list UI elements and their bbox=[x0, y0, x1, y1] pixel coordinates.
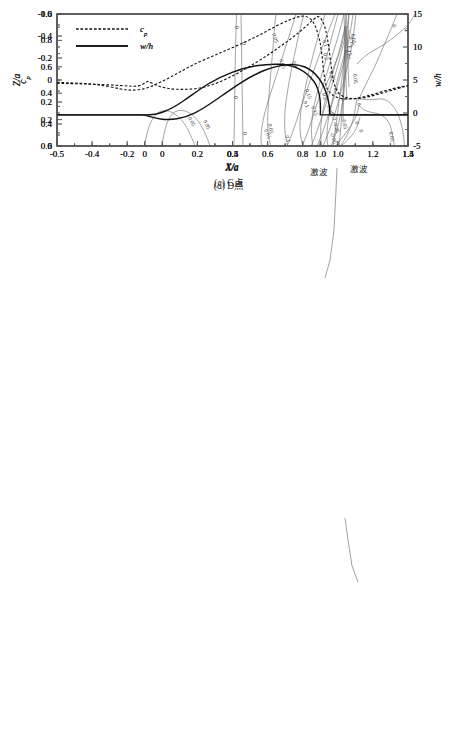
d-yr-4: -5 bbox=[413, 141, 421, 151]
series-wh-d bbox=[57, 65, 408, 120]
d-yl-3: 0 bbox=[48, 75, 53, 85]
d-yl-0: -0.6 bbox=[38, 9, 53, 19]
d-curves-ylabel-right: w/h bbox=[433, 73, 443, 87]
legend-label-wh-d: w/h bbox=[140, 41, 154, 51]
d-curves-x-ticks bbox=[57, 141, 408, 146]
figure-root: -0.4 -0.2 0 0.2 0.4 0.6 0.8 1.0 1.2 1.4 … bbox=[0, 0, 458, 739]
shock-leader-d bbox=[345, 518, 358, 582]
d-curves-xtick-0: -0.5 bbox=[50, 149, 65, 159]
d-curves-svg: -0.5 0 0.5 1.0 1.5 -0.6 -0.4 -0.2 0 0.2 … bbox=[0, 0, 458, 191]
d-curves-xlabel: X/a bbox=[224, 163, 238, 173]
caption-d: (d) D点 bbox=[214, 181, 244, 191]
d-yr-2: 5 bbox=[413, 75, 418, 85]
d-curves-ylabel-left: cp bbox=[18, 76, 31, 84]
d-yr-1: 10 bbox=[413, 42, 423, 52]
d-yl-2: -0.2 bbox=[38, 53, 52, 63]
d-yr-3: 0 bbox=[413, 108, 418, 118]
panel-d-curves: -0.5 0 0.5 1.0 1.5 -0.6 -0.4 -0.2 0 0.2 … bbox=[0, 0, 458, 191]
legend-label-cp-d: cp bbox=[140, 24, 148, 37]
d-yl-6: 0.6 bbox=[41, 141, 53, 151]
d-yl-5: 0.4 bbox=[41, 119, 53, 129]
d-yl-1: -0.4 bbox=[38, 31, 53, 41]
d-curves-xtick-1: 0 bbox=[143, 149, 148, 159]
d-leader-svg bbox=[0, 510, 458, 620]
d-curves-xtick-3: 1.0 bbox=[315, 149, 327, 159]
d-curves-yleft-ticks bbox=[57, 14, 62, 146]
d-yr-0: 15 bbox=[413, 9, 423, 19]
d-curves-yright-ticks bbox=[403, 14, 408, 146]
d-yl-4: 0.2 bbox=[41, 97, 52, 107]
d-curves-xtick-2: 0.5 bbox=[227, 149, 239, 159]
plot-frame bbox=[57, 14, 408, 146]
d-legend: cp w/h bbox=[76, 24, 154, 51]
